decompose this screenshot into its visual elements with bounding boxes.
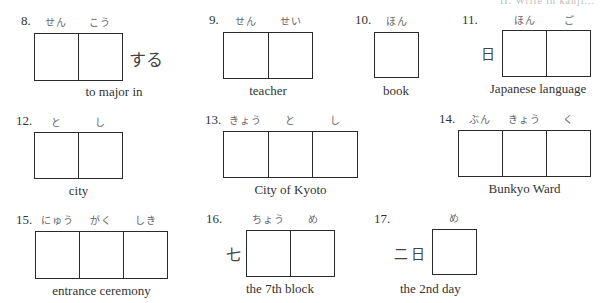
furigana: と [268, 112, 313, 127]
item-number: 9. [209, 12, 219, 28]
meaning-caption: City of Kyoto [223, 182, 358, 198]
item-number: 13. [205, 112, 221, 128]
furigana: きょう [223, 112, 268, 127]
item-number: 17. [374, 211, 390, 227]
item-number: 11. [462, 12, 478, 28]
kanji-cell[interactable] [224, 33, 268, 78]
item-number: 8. [21, 13, 31, 29]
item-number: 14. [439, 111, 455, 127]
faded-header: II. Write in kanji... [500, 0, 595, 6]
kanji-cell[interactable] [35, 34, 78, 80]
kanji-cell[interactable] [433, 230, 476, 274]
kanji-answer-boxes[interactable] [246, 230, 335, 277]
kanji-answer-boxes[interactable] [223, 32, 313, 79]
meaning-caption: entrance ceremony [35, 283, 168, 299]
furigana: せい [268, 13, 313, 28]
item-number: 16. [206, 211, 222, 227]
kanji-cell[interactable] [224, 132, 268, 177]
kanji-answer-boxes[interactable] [502, 30, 591, 77]
furigana: く [546, 111, 591, 126]
kanji-cell[interactable] [79, 232, 123, 278]
furigana: ぶん [458, 111, 502, 126]
kanji-cell[interactable] [290, 231, 334, 276]
furigana: にゅう [35, 212, 79, 227]
kanji-answer-boxes[interactable] [34, 33, 123, 81]
furigana: ご [547, 12, 592, 27]
meaning-caption: book [366, 83, 426, 99]
kanji-answer-boxes[interactable] [34, 132, 123, 179]
kanji-prefix: 日 [481, 43, 495, 63]
kanji-cell[interactable] [78, 133, 122, 178]
furigana: ほん [374, 13, 419, 28]
furigana: せん [223, 13, 268, 28]
kanji-cell[interactable] [78, 34, 122, 80]
furigana: こう [78, 14, 122, 29]
furigana: ほん [502, 12, 547, 27]
meaning-caption: city [34, 183, 123, 199]
meaning-caption: the 2nd day [400, 281, 470, 297]
kanji-cell[interactable] [247, 231, 290, 276]
kanji-answer-boxes[interactable] [35, 231, 168, 279]
furigana: し [313, 112, 358, 127]
kanji-cell[interactable] [502, 131, 546, 176]
meaning-caption: Bunkyo Ward [458, 181, 591, 197]
kanji-prefix: 七 [226, 243, 241, 264]
furigana: がく [79, 212, 123, 227]
kanji-answer-boxes[interactable] [458, 130, 591, 177]
kanji-answer-boxes[interactable] [432, 229, 477, 275]
furigana: せん [34, 14, 78, 29]
furigana: め [432, 210, 477, 225]
meaning-caption: to major in [34, 84, 194, 100]
kanji-cell[interactable] [503, 31, 546, 76]
kanji-answer-boxes[interactable] [374, 32, 419, 78]
kanji-cell[interactable] [35, 133, 78, 178]
kanji-cell[interactable] [268, 33, 313, 78]
okurigana-suffix: する [129, 46, 163, 71]
item-number: 15. [16, 212, 32, 228]
kanji-prefix: 二日 [394, 243, 428, 263]
furigana: と [34, 114, 78, 129]
kanji-cell[interactable] [546, 131, 590, 176]
kanji-cell[interactable] [375, 33, 418, 77]
furigana: しき [123, 212, 168, 227]
kanji-cell[interactable] [36, 232, 79, 278]
kanji-cell[interactable] [123, 232, 167, 278]
kanji-cell[interactable] [459, 131, 502, 176]
furigana: きょう [502, 111, 546, 126]
kanji-cell[interactable] [312, 132, 357, 177]
kanji-cell[interactable] [268, 132, 313, 177]
item-number: 12. [16, 113, 32, 129]
furigana: め [291, 211, 335, 226]
furigana: し [78, 114, 122, 129]
furigana: ちょう [246, 211, 291, 226]
kanji-cell[interactable] [546, 31, 590, 76]
kanji-answer-boxes[interactable] [223, 131, 358, 178]
item-number: 10. [355, 12, 371, 28]
meaning-caption: Japanese language [478, 81, 598, 97]
meaning-caption: teacher [223, 83, 313, 99]
meaning-caption: the 7th block [246, 281, 316, 297]
